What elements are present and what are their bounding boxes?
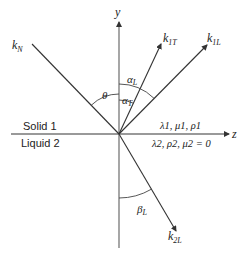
svg-text:k2L: k2L (168, 229, 182, 245)
svg-text:βL: βL (136, 203, 147, 217)
medium-lower-label: Liquid 2 (21, 137, 60, 149)
svg-text:αT: αT (122, 94, 133, 108)
svg-text:k1T: k1T (163, 31, 177, 47)
alpha-l-label: αL (127, 73, 138, 87)
y-axis-label: y (114, 5, 121, 19)
medium-upper-label: Solid 1 (23, 120, 57, 132)
upper-medium-params: λ1, μ1, ρ1 (159, 120, 201, 131)
label-k1L: k1L (207, 31, 221, 47)
svg-text:k1L: k1L (207, 31, 221, 47)
lower-medium-params: λ2, ρ2, μ2 = 0 (151, 138, 211, 149)
diagram-canvas: y z kN k1T k1L k2L θ αL αT βL Solid 1 Li… (0, 0, 247, 254)
label-k1T: k1T (163, 31, 177, 47)
beta-l-label: βL (136, 203, 147, 217)
svg-text:kN: kN (12, 38, 23, 54)
z-axis-label: z (231, 127, 237, 141)
label-kN: kN (12, 38, 23, 54)
svg-text:αL: αL (127, 73, 138, 87)
beta-l-arc (119, 189, 151, 198)
reflected-transverse-vector-k1T (119, 44, 161, 134)
label-k2L: k2L (168, 229, 182, 245)
alpha-t-label: αT (122, 94, 133, 108)
theta-label: θ (102, 89, 108, 101)
